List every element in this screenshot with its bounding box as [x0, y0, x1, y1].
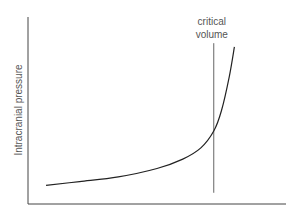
- annotation-label-critical: critical: [198, 16, 226, 27]
- y-axis-label: Intracranial pressure: [13, 64, 24, 156]
- pressure-curve: [46, 47, 234, 185]
- annotation-label-volume: volume: [196, 29, 229, 40]
- chart: Intracranial pressure critical volume: [0, 0, 289, 210]
